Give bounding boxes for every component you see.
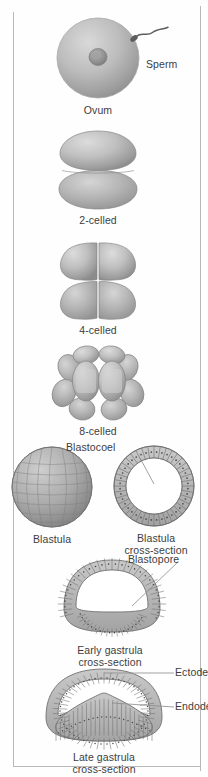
ovum-nucleus (89, 49, 107, 66)
stage-blastula: Blastula (0, 445, 104, 555)
stage-eight-celled: 8-celled (0, 345, 208, 445)
four-cell-icon (0, 238, 208, 323)
blastomere (99, 243, 136, 280)
blastula-cross-section-icon (104, 442, 208, 530)
blastomere (60, 281, 97, 319)
two-cell-icon (0, 128, 208, 213)
blastula-icon (0, 445, 104, 531)
ovum-caption: Ovum (58, 104, 138, 116)
embryonic-development-figure: Sperm Ovum 2-celled 4-celled (0, 0, 208, 777)
blastomere (99, 281, 136, 319)
stage-ovum: Sperm Ovum (0, 12, 208, 117)
sperm-icon (129, 27, 168, 43)
ectoderm-label: Ectoderm (175, 666, 208, 678)
stage-early-gastrula: Blastopore Early gastrula cross-section (52, 556, 208, 676)
four-celled-caption: 4-celled (58, 324, 138, 336)
stage-two-celled: 2-celled (0, 128, 208, 228)
late-gastrula-caption: Late gastrula cross-section (38, 751, 170, 775)
stage-late-gastrula: Ectoderm Endoderm Late gastrula cross-se… (38, 667, 208, 777)
eight-cell-icon (0, 345, 208, 423)
stage-four-celled: 4-celled (0, 238, 208, 338)
blastopore-label: Blastopore (128, 553, 179, 565)
blastula-caption: Blastula (12, 533, 92, 545)
blastocoel-cavity (126, 458, 182, 514)
sperm-label: Sperm (146, 58, 177, 70)
blastomere (60, 243, 97, 280)
eight-celled-caption: 8-celled (58, 425, 138, 437)
blastomere (59, 171, 137, 210)
two-celled-caption: 2-celled (58, 214, 138, 226)
endoderm-label: Endoderm (175, 700, 208, 712)
early-gastrula-caption: Early gastrula cross-section (44, 644, 176, 668)
blastocoel-label: Blastocoel (66, 441, 115, 453)
early-gastrula-icon (52, 556, 208, 642)
blastomere (60, 131, 136, 171)
stage-blastula-cross-section: Blastocoel Blastula cross-section (104, 442, 208, 567)
